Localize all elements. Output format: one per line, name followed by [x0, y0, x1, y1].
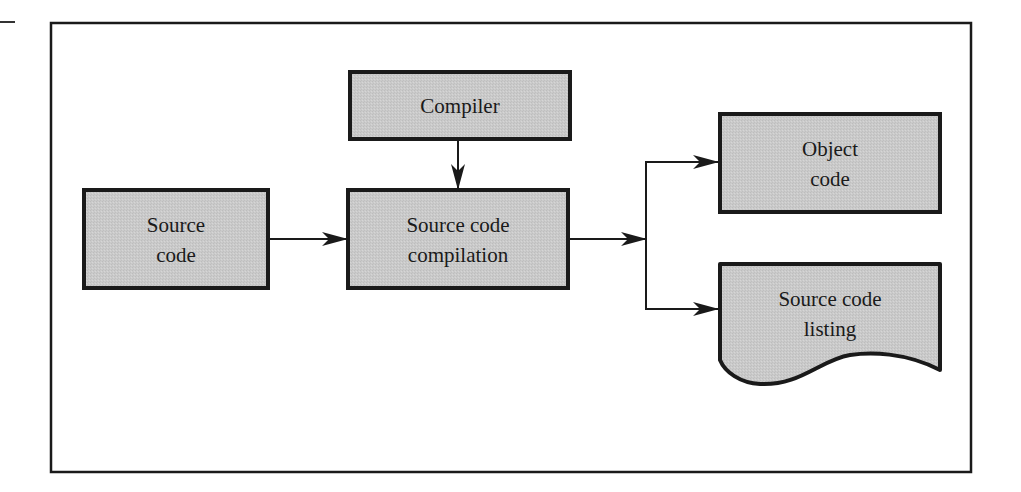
node-label: Source code [406, 213, 509, 237]
node-listing: Source code listing [720, 264, 940, 384]
node-source-code: Source code [84, 190, 268, 288]
node-label: Source code [778, 287, 881, 311]
node-label: Source [147, 213, 205, 237]
node-object-code: Object code [720, 114, 940, 212]
node-label: Object [802, 137, 858, 161]
node-label: code [156, 243, 196, 267]
diagram-canvas: Compiler Source code Source code compila… [0, 0, 1021, 492]
node-compilation: Source code compilation [348, 190, 568, 288]
node-label: code [810, 167, 850, 191]
edge-to-listing [646, 239, 718, 309]
node-compiler: Compiler [350, 72, 570, 139]
edge-to-object-code [646, 162, 718, 239]
node-label: listing [804, 317, 857, 341]
node-label: compilation [408, 243, 509, 267]
node-label: Compiler [420, 94, 499, 118]
